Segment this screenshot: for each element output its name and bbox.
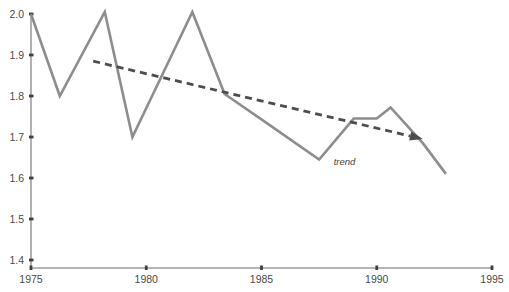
- y-axis-tick-labels: 1.41.51.61.71.81.92.0: [9, 8, 24, 266]
- y-axis-tick-label: 2.0: [9, 8, 24, 20]
- x-axis-tick-label: 1995: [480, 273, 504, 285]
- x-axis-tick-label: 1985: [250, 273, 274, 285]
- y-axis-tick: [29, 95, 34, 98]
- x-axis-tick-labels: 19751980198519901995: [19, 273, 504, 285]
- x-axis-tick: [375, 266, 378, 271]
- chart-canvas: 1.41.51.61.71.81.92.0 197519801985199019…: [0, 0, 509, 292]
- x-axis-tick: [260, 266, 263, 271]
- trend-line: [93, 61, 410, 136]
- x-axis-tick: [30, 266, 33, 271]
- y-axis-tick-label: 1.4: [9, 254, 24, 266]
- y-axis-tick: [29, 218, 34, 221]
- line-chart: 1.41.51.61.71.81.92.0 197519801985199019…: [0, 0, 509, 292]
- y-axis-tick-label: 1.8: [9, 90, 24, 102]
- x-axis-tick: [145, 266, 148, 271]
- y-axis-tick-label: 1.5: [9, 213, 24, 225]
- x-axis-tick: [491, 266, 494, 271]
- trend-annotation-label: trend: [334, 156, 356, 167]
- y-axis-tick: [29, 136, 34, 139]
- x-axis-tick-label: 1990: [365, 273, 389, 285]
- x-axis-tick-label: 1980: [135, 273, 159, 285]
- y-axis-tick: [29, 54, 34, 57]
- y-axis-tick: [29, 259, 34, 262]
- x-axis-tick-label: 1975: [19, 273, 43, 285]
- y-axis-tick: [29, 177, 34, 180]
- y-axis-tick-label: 1.9: [9, 49, 24, 61]
- trend-arrowhead-icon: [409, 132, 423, 141]
- y-axis-tick-label: 1.7: [9, 131, 24, 143]
- y-axis-tick-label: 1.6: [9, 172, 24, 184]
- data-series-line: [31, 12, 446, 174]
